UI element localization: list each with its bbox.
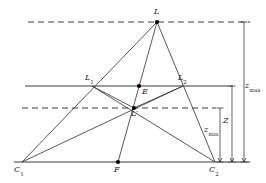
measure-label-z-min: zmin bbox=[204, 126, 219, 134]
segment-L-to-C1 bbox=[22, 22, 157, 162]
diagram-canvas bbox=[0, 0, 266, 183]
line-layer bbox=[14, 22, 250, 162]
point-dot-F bbox=[116, 160, 120, 164]
measure-label-Z: Z bbox=[223, 117, 229, 125]
point-dot-E bbox=[137, 84, 141, 88]
segment-C2-to-L1 bbox=[92, 86, 215, 162]
point-label-C1: C1 bbox=[14, 166, 24, 174]
point-label-L1: L1 bbox=[85, 74, 94, 82]
segment-C1-to-L2 bbox=[22, 86, 183, 162]
point-label-L-prime: L′ bbox=[131, 110, 138, 118]
segment-L-to-F bbox=[118, 22, 157, 162]
point-label-C2: C2 bbox=[209, 166, 219, 174]
point-label-L2: L2 bbox=[178, 74, 187, 82]
geometry-figure: L L1 L2 E L′ C1 C2 F zmin Z zmax bbox=[0, 0, 266, 183]
point-label-F: F bbox=[114, 166, 120, 174]
point-dot-L bbox=[155, 20, 159, 24]
segment-L-to-C2 bbox=[157, 22, 215, 162]
measure-layer bbox=[217, 22, 248, 162]
point-label-L: L bbox=[154, 8, 159, 16]
measure-label-z-max: zmax bbox=[245, 82, 261, 90]
point-label-E: E bbox=[142, 88, 148, 96]
segment-L1-to-Lp bbox=[92, 86, 134, 108]
